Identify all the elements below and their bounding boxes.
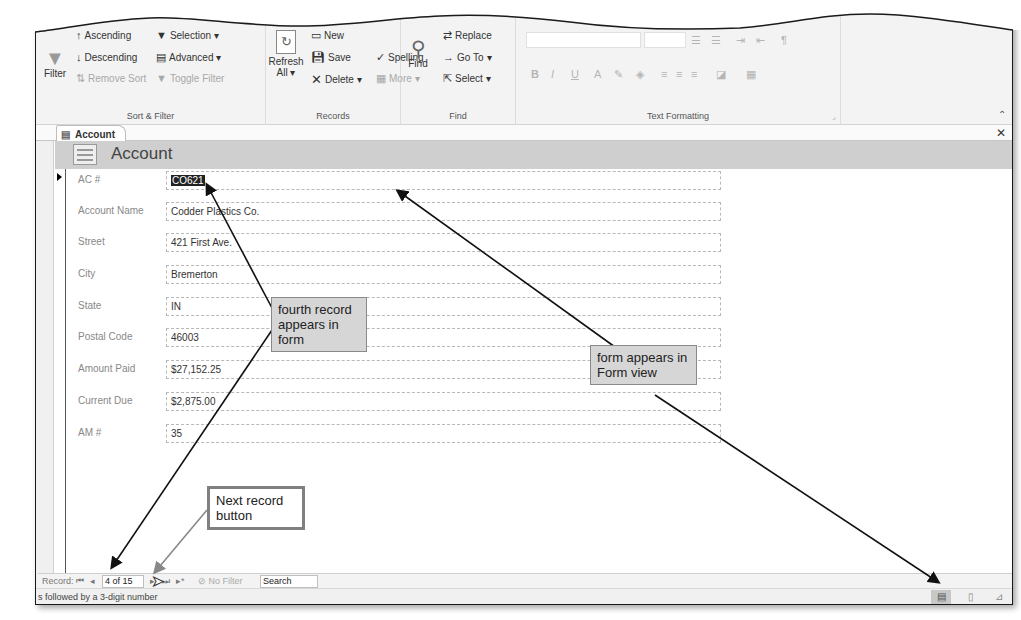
am-number-input[interactable]: 35 — [166, 424, 721, 443]
document-tab-strip: ▤ Account ✕ — [36, 125, 1012, 141]
font-color-button[interactable]: A — [594, 68, 601, 80]
align-right-icon[interactable]: ≡ — [691, 68, 697, 80]
delete-label: Delete — [325, 74, 354, 85]
record-selector[interactable] — [55, 169, 66, 575]
alternate-row-color-icon[interactable]: ◪ — [716, 68, 726, 81]
select-label: Select — [455, 73, 483, 84]
descending-label: Descending — [85, 52, 138, 63]
new-blank-record-button[interactable]: ▸* — [176, 576, 185, 586]
underline-button[interactable]: U — [571, 68, 579, 80]
ac-number-input[interactable]: CO621 — [166, 171, 721, 190]
current-due-input[interactable]: $2,875.00 — [166, 392, 721, 411]
tab-account-label: Account — [75, 129, 115, 140]
field-label: Postal Code — [78, 331, 132, 342]
dropdown-arrow-icon: ▾ — [216, 52, 221, 63]
field-value-selected: CO621 — [171, 175, 205, 186]
mouse-pointer-icon: ➤ — [152, 573, 164, 589]
navigation-pane-collapsed[interactable] — [36, 125, 54, 605]
field-label: City — [78, 268, 95, 279]
magnifier-icon: ⚲ — [411, 38, 426, 58]
collapse-ribbon-icon[interactable]: ⌃ — [998, 109, 1006, 120]
refresh-label: Refresh — [268, 56, 304, 67]
go-to-button[interactable]: →Go To▾ — [443, 52, 492, 63]
callout-next-record: Next record button — [207, 486, 305, 530]
record-navigation-bar: Record: ⏮ ◂ 4 of 15 ▸ ⏭ ▸* ⊘ No Filter S… — [38, 573, 1012, 588]
field-city: City Bremerton — [78, 265, 728, 285]
city-input[interactable]: Bremerton — [166, 265, 721, 284]
state-input[interactable]: IN — [166, 297, 721, 316]
find-button[interactable]: ⚲ Find — [403, 38, 433, 69]
highlight-color-icon[interactable]: ✎ — [614, 68, 623, 81]
cursor-icon: ⇱ — [443, 73, 452, 84]
delete-button[interactable]: ✕Delete▾ — [311, 73, 362, 86]
toggle-filter-label: Toggle Filter — [170, 73, 224, 84]
form-tab-icon: ▤ — [61, 129, 70, 140]
remove-sort-label: Remove Sort — [88, 73, 146, 84]
descending-button[interactable]: ↓Descending — [76, 52, 137, 63]
no-filter-label: No Filter — [209, 576, 243, 586]
records-group-label: Records — [266, 111, 400, 121]
design-view-button[interactable]: ⊿ — [989, 590, 1009, 604]
field-label: Street — [78, 236, 105, 247]
callout-fourth-record: fourth record appears in form — [271, 297, 367, 352]
field-label: AM # — [78, 427, 101, 438]
torn-edge-decoration — [0, 0, 1021, 40]
filter-funnel-icon: ▼ — [45, 48, 65, 68]
remove-sort-button[interactable]: ⇅Remove Sort — [76, 73, 146, 84]
form-view-button[interactable]: ▤ — [931, 590, 951, 604]
advanced-filter-icon: ▤ — [156, 52, 166, 63]
dialog-launcher-icon[interactable]: ⌟ — [832, 112, 836, 121]
delete-x-icon: ✕ — [311, 73, 322, 86]
status-text: s followed by a 3-digit number — [38, 592, 158, 602]
dropdown-arrow-icon: ▾ — [357, 74, 362, 85]
filter-label: Filter — [42, 68, 68, 79]
field-label: State — [78, 300, 101, 311]
remove-sort-icon: ⇅ — [76, 73, 85, 84]
field-label: Amount Paid — [78, 363, 135, 374]
layout-view-button[interactable]: ▯ — [961, 590, 981, 604]
no-filter-button[interactable]: ⊘ No Filter — [198, 576, 243, 586]
close-icon[interactable]: ✕ — [996, 126, 1006, 140]
sort-filter-group-label: Sort & Filter — [36, 111, 265, 121]
field-state: State IN — [78, 297, 728, 317]
refresh-all-label: All — [277, 67, 288, 78]
field-ac-number: AC # CO621 — [78, 171, 728, 191]
first-record-button[interactable]: ⏮ — [76, 576, 84, 587]
align-center-icon[interactable]: ≡ — [676, 68, 682, 80]
align-left-icon[interactable]: ≡ — [661, 68, 667, 80]
advanced-button[interactable]: ▤Advanced▾ — [156, 52, 221, 63]
gridlines-icon[interactable]: ▦ — [746, 68, 756, 81]
search-input[interactable]: Search — [260, 575, 318, 588]
filter-button[interactable]: ▼ Filter — [42, 48, 68, 79]
toggle-filter-button[interactable]: ▼Toggle Filter — [156, 73, 224, 84]
current-record-input[interactable]: 4 of 15 — [102, 575, 144, 588]
status-bar: s followed by a 3-digit number ▤ ▯ ⊿ — [36, 588, 1013, 605]
italic-button[interactable]: I — [551, 68, 554, 80]
filter-off-icon: ⊘ — [198, 576, 209, 586]
go-to-label: Go To — [457, 52, 484, 63]
screenshot-frame: ▼ Filter ↑Ascending ↓Descending ⇅Remove … — [0, 0, 1021, 620]
advanced-label: Advanced — [169, 52, 213, 63]
save-disk-icon: 💾︎ — [311, 52, 325, 63]
tab-account[interactable]: ▤ Account — [56, 125, 126, 142]
find-group-label: Find — [401, 111, 515, 121]
arrow-right-icon: → — [443, 52, 454, 63]
field-account-name: Account Name Codder Plastics Co. — [78, 202, 728, 222]
account-name-input[interactable]: Codder Plastics Co. — [166, 202, 721, 221]
previous-record-button[interactable]: ◂ — [90, 576, 95, 586]
select-button[interactable]: ⇱Select▾ — [443, 73, 491, 84]
save-button[interactable]: 💾︎Save — [311, 52, 351, 63]
current-record-arrow-icon — [57, 173, 62, 181]
street-input[interactable]: 421 First Ave. — [166, 233, 721, 252]
callout-form-view: form appears in Form view — [590, 345, 697, 385]
more-icon: ▦ — [376, 73, 386, 84]
field-current-due: Current Due $2,875.00 — [78, 392, 728, 412]
form-icon — [73, 144, 97, 165]
bold-button[interactable]: B — [531, 68, 539, 80]
fill-color-icon[interactable]: ◈ — [636, 68, 644, 81]
text-formatting-group-label: Text Formatting — [516, 111, 840, 121]
field-street: Street 421 First Ave. — [78, 233, 728, 253]
field-am-number: AM # 35 — [78, 424, 728, 444]
field-label: Account Name — [78, 205, 144, 216]
field-label: AC # — [78, 174, 100, 185]
